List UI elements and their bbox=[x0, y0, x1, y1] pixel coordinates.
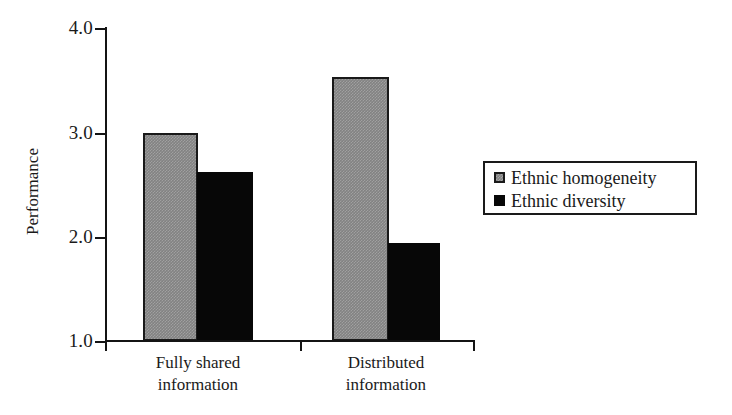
x-axis-category-line1: Distributed bbox=[296, 352, 476, 374]
y-axis-line bbox=[105, 27, 107, 342]
x-axis-category-line2: information bbox=[296, 374, 476, 396]
bar-fully-shared-diversity bbox=[197, 172, 253, 341]
legend-item-ethnic-homogeneity: Ethnic homogeneity bbox=[494, 166, 695, 189]
y-axis-tick-3: 3.0 bbox=[40, 133, 107, 135]
x-axis-category-label-fully-shared: Fully shared information bbox=[108, 352, 288, 396]
y-axis-tick-label-3: 3.0 bbox=[47, 123, 93, 142]
legend-label-ethnic-diversity: Ethnic diversity bbox=[511, 191, 625, 211]
bar-fully-shared-homogeneity bbox=[143, 133, 198, 341]
y-axis-tick-label-2: 2.0 bbox=[47, 227, 93, 246]
y-axis-tick-4: 4.0 bbox=[40, 28, 107, 30]
x-axis-line bbox=[105, 340, 475, 342]
y-axis-tick-label-1: 1.0 bbox=[47, 331, 93, 350]
y-axis-tick-label-4: 4.0 bbox=[47, 18, 93, 37]
bar-distributed-diversity bbox=[388, 243, 440, 341]
x-axis-tick-right bbox=[473, 342, 475, 351]
y-axis-tick-1: 1.0 bbox=[40, 341, 107, 343]
x-axis-tick-left bbox=[105, 342, 107, 351]
legend-label-ethnic-homogeneity: Ethnic homogeneity bbox=[511, 168, 656, 188]
black-square-swatch-icon bbox=[494, 195, 505, 206]
x-axis-category-line1: Fully shared bbox=[108, 352, 288, 374]
gray-square-swatch-icon bbox=[494, 172, 505, 183]
x-axis-category-line2: information bbox=[108, 374, 288, 396]
bar-chart-figure: Performance 4.0 3.0 2.0 1.0 Fully shared… bbox=[0, 0, 732, 415]
x-axis-category-label-distributed: Distributed information bbox=[296, 352, 476, 396]
bar-distributed-homogeneity bbox=[332, 77, 389, 341]
y-axis-title: Performance bbox=[24, 127, 41, 257]
y-axis-tick-2: 2.0 bbox=[40, 237, 107, 239]
legend-item-ethnic-diversity: Ethnic diversity bbox=[494, 189, 695, 212]
x-axis-tick-middle bbox=[300, 342, 302, 351]
chart-legend: Ethnic homogeneity Ethnic diversity bbox=[483, 161, 697, 215]
